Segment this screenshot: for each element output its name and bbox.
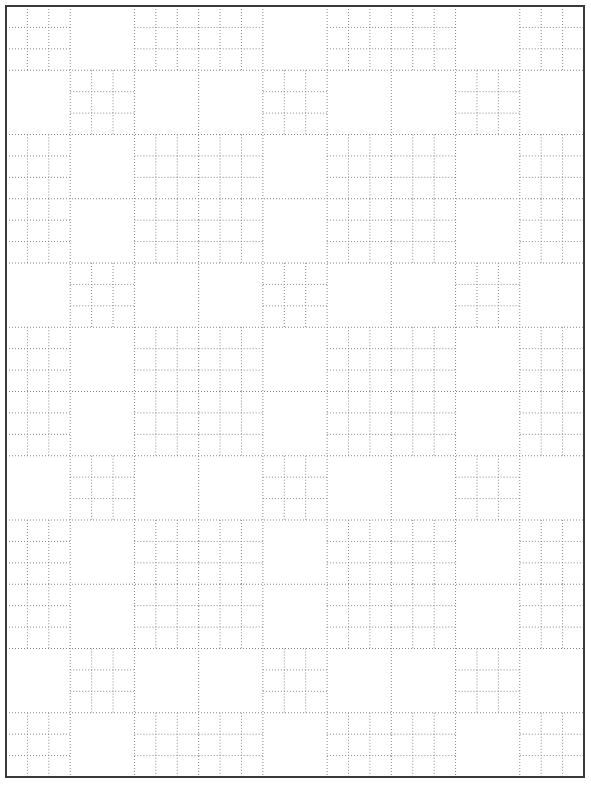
grid-pattern-canvas	[0, 0, 591, 786]
background	[0, 0, 591, 786]
